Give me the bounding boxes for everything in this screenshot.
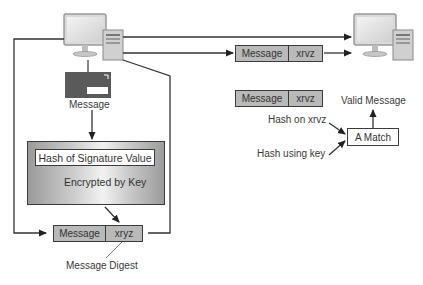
sender-packet-message: Message	[54, 226, 106, 241]
valid-message-label: Valid Message	[341, 95, 406, 106]
envelope-icon	[65, 60, 111, 98]
sender-packet: Message xryz	[53, 225, 143, 242]
hash-key-arrow	[329, 141, 345, 155]
signature-box-title: Hash of Signature Value	[35, 149, 155, 166]
signature-box: Hash of Signature Value Encrypted by Key	[27, 141, 165, 205]
signature-box-subtitle: Encrypted by Key	[64, 176, 146, 188]
signature-to-digest-arrow	[105, 207, 119, 222]
message-digest-caption: Message Digest	[66, 260, 138, 271]
transmitted-packet-message: Message	[236, 46, 289, 61]
transmitted-packet-hash: xrvz	[289, 46, 322, 61]
hash-key-label: Hash using key	[257, 148, 325, 159]
received-packet-message: Message	[236, 91, 289, 106]
hash-on-label: Hash on xrvz	[268, 114, 326, 125]
hash-on-arrow	[329, 123, 345, 134]
receiver-computer-icon	[354, 14, 413, 60]
sender-computer-icon	[64, 14, 123, 60]
digest-leader-line	[106, 242, 122, 258]
received-packet-hash: xrvz	[289, 91, 322, 106]
sender-packet-digest: xryz	[106, 226, 142, 241]
envelope-label: Message	[69, 99, 110, 110]
match-box: A Match	[347, 128, 399, 146]
received-packet: Message xrvz	[235, 90, 323, 107]
transmitted-packet: Message xrvz	[235, 45, 323, 62]
